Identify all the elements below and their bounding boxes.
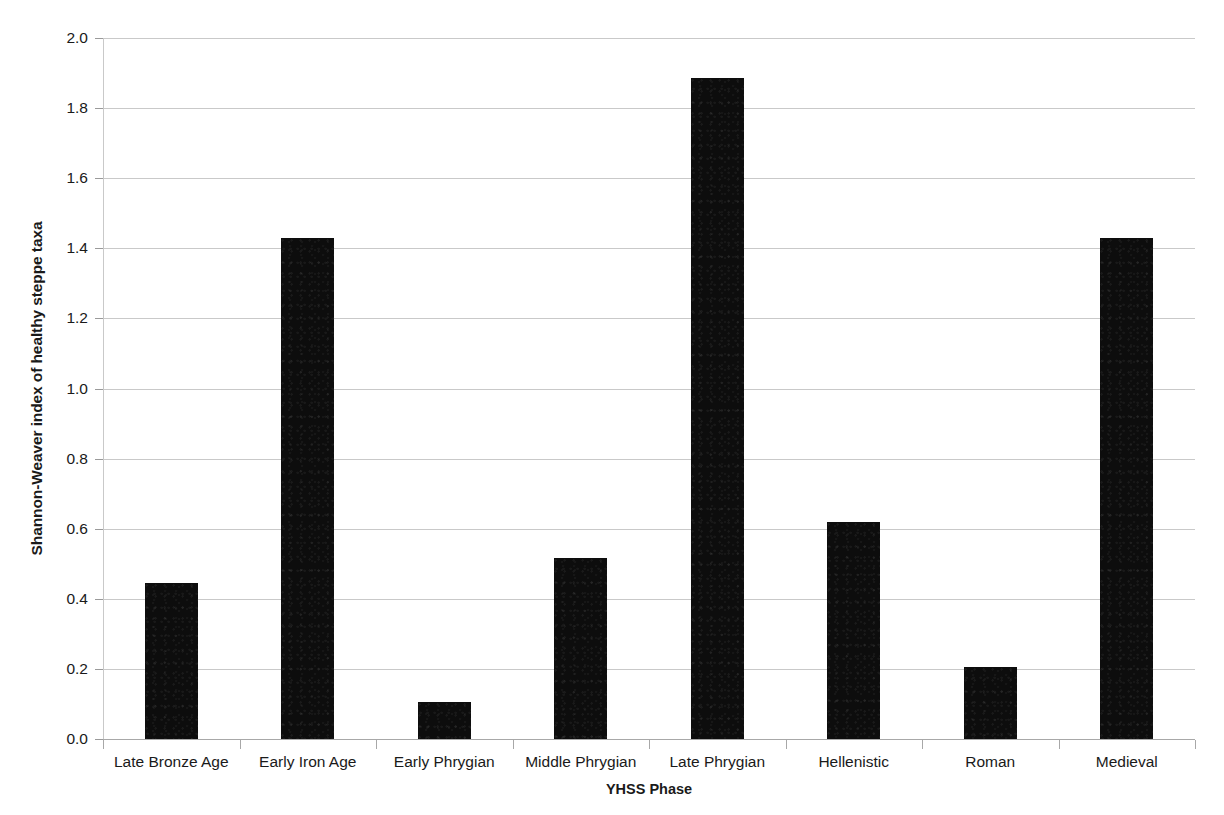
gridline <box>103 318 1195 319</box>
gridline <box>103 389 1195 390</box>
y-axis-tick <box>95 529 103 530</box>
bar <box>964 667 1017 739</box>
x-axis-tick <box>786 740 787 749</box>
x-axis-tick-label: Middle Phrygian <box>513 753 650 770</box>
y-axis-tick <box>95 459 103 460</box>
y-axis-tick-label: 0.4 <box>42 591 88 607</box>
y-axis-tick <box>95 669 103 670</box>
plot-area <box>103 38 1195 739</box>
y-axis-tick <box>95 108 103 109</box>
x-axis-tick <box>1059 740 1060 749</box>
bar <box>145 583 198 739</box>
gridline <box>103 459 1195 460</box>
y-axis-tick <box>95 38 103 39</box>
gridline <box>103 38 1195 39</box>
y-axis-tick-label: 0.6 <box>42 521 88 537</box>
y-axis-tick-label: 2.0 <box>42 30 88 46</box>
gridline <box>103 599 1195 600</box>
y-axis-tick <box>95 248 103 249</box>
x-axis-tick <box>103 740 104 749</box>
y-axis-tick-label: 1.8 <box>42 100 88 116</box>
y-axis-tick-label: 0.2 <box>42 661 88 677</box>
bar <box>418 702 471 739</box>
y-axis-tick <box>95 599 103 600</box>
x-axis-tick-label: Late Phrygian <box>649 753 786 770</box>
x-axis-tick-label: Late Bronze Age <box>103 753 240 770</box>
x-axis-tick-label: Hellenistic <box>786 753 923 770</box>
x-axis-tick-label: Early Phrygian <box>376 753 513 770</box>
x-axis-tick <box>376 740 377 749</box>
y-axis-tick-label: 0.8 <box>42 451 88 467</box>
x-axis-tick <box>922 740 923 749</box>
y-axis-tick-label: 0.0 <box>42 731 88 747</box>
x-axis-tick-label: Early Iron Age <box>240 753 377 770</box>
y-axis-tick <box>95 739 103 740</box>
y-axis-tick-label: 1.4 <box>42 240 88 256</box>
gridline <box>103 529 1195 530</box>
y-axis-tick <box>95 178 103 179</box>
bar <box>1100 238 1153 739</box>
x-axis-tick <box>649 740 650 749</box>
bar <box>827 522 880 739</box>
bar <box>281 238 334 739</box>
gridline <box>103 178 1195 179</box>
bar-chart: Shannon-Weaver index of healthy steppe t… <box>0 0 1224 815</box>
x-axis-tick-label: Medieval <box>1059 753 1196 770</box>
x-axis-title: YHSS Phase <box>103 781 1195 797</box>
x-axis-tick <box>1195 740 1196 749</box>
x-axis-tick-label: Roman <box>922 753 1059 770</box>
x-axis-tick <box>513 740 514 749</box>
y-axis-tick-label: 1.2 <box>42 310 88 326</box>
y-axis-tick-label: 1.0 <box>42 381 88 397</box>
y-axis-tick <box>95 389 103 390</box>
gridline <box>103 248 1195 249</box>
x-axis-tick <box>240 740 241 749</box>
gridline <box>103 669 1195 670</box>
bar <box>691 78 744 739</box>
gridline <box>103 108 1195 109</box>
bar <box>554 558 607 739</box>
y-axis-tick <box>95 318 103 319</box>
y-axis-tick-label: 1.6 <box>42 170 88 186</box>
